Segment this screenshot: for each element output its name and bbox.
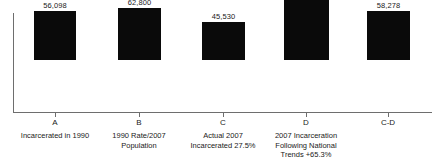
category-label-b: B bbox=[136, 118, 141, 128]
bar-a[interactable] bbox=[34, 11, 76, 60]
bar-group-a[interactable]: 56,098 bbox=[34, 11, 76, 60]
bar-b[interactable] bbox=[118, 8, 161, 60]
category-label-a: A bbox=[52, 118, 57, 128]
bar-group-b[interactable]: 62,800 bbox=[118, 8, 161, 60]
category-description-d: 2007 Incarceration Following National Tr… bbox=[241, 131, 371, 160]
category-label-c: C bbox=[220, 118, 226, 128]
bar-value-c: 45,530 bbox=[212, 12, 236, 21]
tick-a bbox=[55, 113, 56, 117]
bar-c[interactable] bbox=[202, 22, 245, 60]
category-label-d: D bbox=[303, 118, 309, 128]
bar-d[interactable] bbox=[284, 0, 329, 60]
tick-c-minus-d bbox=[388, 113, 389, 117]
category-description-d-line1: 2007 Incarceration bbox=[241, 131, 371, 141]
bar-value-c-minus-d: 58,278 bbox=[377, 1, 401, 10]
category-label-c-minus-d: C-D bbox=[381, 118, 395, 128]
bar-group-c[interactable]: 45,530 bbox=[202, 22, 245, 60]
bar-group-d[interactable]: 103,808 bbox=[284, 0, 329, 60]
bar-value-b: 62,800 bbox=[128, 0, 152, 7]
bar-value-a: 56,098 bbox=[43, 1, 67, 10]
category-description-d-line3: Trends +65.3% bbox=[241, 150, 371, 160]
plot-area: 56,098 62,800 45,530 103,808 58,278 bbox=[0, 0, 441, 113]
bar-group-c-minus-d[interactable]: 58,278 bbox=[367, 11, 410, 60]
tick-d bbox=[306, 113, 307, 117]
bar-chart: 56,098 62,800 45,530 103,808 58,278 A B … bbox=[0, 0, 441, 165]
category-description-d-line2: Following National bbox=[241, 141, 371, 151]
bar-c-minus-d[interactable] bbox=[367, 11, 410, 60]
tick-c bbox=[223, 113, 224, 117]
tick-b bbox=[139, 113, 140, 117]
